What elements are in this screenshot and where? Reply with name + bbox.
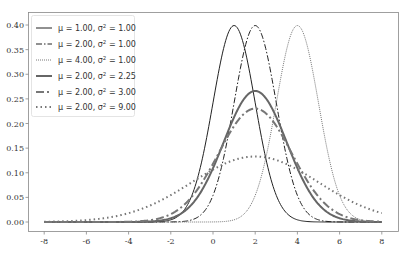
- y-tick-label: 0.30: [6, 70, 24, 79]
- y-tick-label: 0.05: [6, 193, 24, 202]
- legend-label: μ = 1.00, σ2 = 1.00: [58, 23, 136, 33]
- curve-series-5: [44, 109, 382, 222]
- x-tick-label: 0: [210, 237, 215, 246]
- normal-distribution-chart: -8-6-4-202468 0.000.050.100.150.200.250.…: [0, 0, 406, 258]
- x-tick-label: 6: [337, 237, 342, 246]
- y-tick-label: 0.15: [6, 144, 24, 153]
- x-tick-label: -8: [40, 237, 48, 246]
- legend-label: μ = 2.00, σ2 = 2.25: [58, 71, 136, 81]
- x-tick-label: -6: [83, 237, 91, 246]
- x-tick-label: 8: [379, 237, 384, 246]
- legend-label: μ = 2.00, σ2 = 1.00: [58, 39, 136, 49]
- x-tick-label: -2: [167, 237, 175, 246]
- y-axis: 0.000.050.100.150.200.250.300.350.40: [6, 21, 28, 227]
- x-axis: -8-6-4-202468: [40, 232, 384, 247]
- y-tick-label: 0.20: [6, 120, 24, 129]
- y-tick-label: 0.00: [6, 218, 24, 227]
- y-tick-label: 0.25: [6, 95, 24, 104]
- x-tick-label: 4: [295, 237, 300, 246]
- legend-label: μ = 4.00, σ2 = 1.00: [58, 55, 136, 65]
- y-tick-label: 0.40: [6, 21, 24, 30]
- x-tick-label: -4: [125, 237, 133, 246]
- legend-label: μ = 2.00, σ2 = 3.00: [58, 87, 136, 97]
- y-tick-label: 0.10: [6, 169, 24, 178]
- legend: μ = 1.00, σ2 = 1.00μ = 2.00, σ2 = 1.00μ …: [32, 16, 136, 117]
- legend-label: μ = 2.00, σ2 = 9.00: [58, 102, 136, 112]
- x-tick-label: 2: [253, 237, 258, 246]
- y-tick-label: 0.35: [6, 46, 24, 55]
